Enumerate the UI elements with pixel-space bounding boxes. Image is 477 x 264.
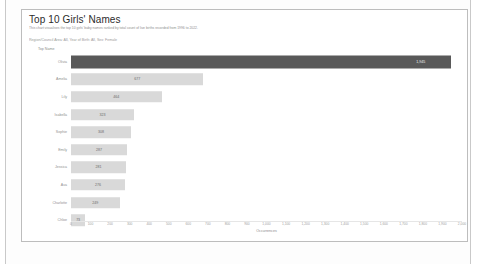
axis-tick: 1,800 — [419, 222, 427, 226]
axis-tick-labels: 01002003004005006007008009001,0001,1001,… — [71, 222, 462, 229]
bar-value-label: 276 — [95, 183, 101, 187]
axis-tick: 400 — [146, 222, 152, 226]
axis-tick: 500 — [166, 222, 172, 226]
bar-track: 281 — [71, 159, 462, 177]
axis-tick: 0 — [70, 222, 72, 226]
page-frame: Top 10 Girls' Names This chart visualise… — [5, 0, 471, 264]
axis-tick: 1,900 — [438, 222, 446, 226]
bar-category-label: Charlotte — [29, 201, 71, 205]
value-axis: 01002003004005006007008009001,0001,1001,… — [29, 221, 462, 237]
bar-track: 308 — [71, 123, 462, 141]
axis-tick: 1,600 — [380, 222, 388, 226]
category-axis-title: Top Name — [38, 47, 54, 51]
bar-value-label: 281 — [95, 165, 101, 169]
bar-track: 249 — [71, 194, 462, 212]
axis-tick: 300 — [127, 222, 133, 226]
bar-track: 287 — [71, 141, 462, 159]
bar-track: 677 — [71, 71, 462, 89]
bar-row[interactable]: Olivia1,945 — [29, 53, 462, 71]
axis-tick: 1,200 — [301, 222, 309, 226]
filter-summary: Region/Council Area: All, Year of Birth:… — [29, 38, 329, 42]
bar-track: 276 — [71, 176, 462, 194]
bar-row[interactable]: Jessica281 — [29, 159, 462, 177]
bar-category-label: Amelia — [29, 77, 71, 81]
bar-track: 464 — [71, 88, 462, 106]
bar-value-label: 287 — [96, 148, 102, 152]
bar-category-label: Jessica — [29, 165, 71, 169]
bar-value-label: 464 — [113, 95, 119, 99]
bar-category-label: Isabella — [29, 113, 71, 117]
bar-category-label: Ava — [29, 183, 71, 187]
axis-tick: 1,000 — [262, 222, 270, 226]
card-subtitle: This chart visualises the top 10 girls' … — [29, 26, 329, 30]
bar-row[interactable]: Sophie308 — [29, 123, 462, 141]
bar-value-label: 308 — [98, 130, 104, 134]
axis-tick: 1,700 — [399, 222, 407, 226]
axis-tick: 1,500 — [360, 222, 368, 226]
bar-category-label: Lily — [29, 95, 71, 99]
bar-track: 323 — [71, 106, 462, 124]
axis-tick: 600 — [186, 222, 192, 226]
bar-row[interactable]: Isabella323 — [29, 106, 462, 124]
report-card: Top 10 Girls' Names This chart visualise… — [21, 9, 468, 242]
axis-tick: 2,000 — [458, 222, 466, 226]
bar-value-label: 323 — [100, 113, 106, 117]
axis-tick: 1,300 — [321, 222, 329, 226]
bar-row[interactable]: Amelia677 — [29, 71, 462, 89]
bar-category-label: Sophie — [29, 130, 71, 134]
bar-value-label: 1,945 — [416, 60, 425, 64]
page-title: Top 10 Girls' Names — [29, 14, 121, 25]
bar-rows: Olivia1,945Amelia677Lily464Isabella323So… — [29, 53, 462, 229]
bar-row[interactable]: Charlotte249 — [29, 194, 462, 212]
axis-tick: 800 — [225, 222, 231, 226]
bar-value-label: 249 — [92, 201, 98, 205]
bar[interactable] — [71, 55, 451, 68]
axis-tick: 100 — [88, 222, 94, 226]
bar-category-label: Olivia — [29, 60, 71, 64]
bar-row[interactable]: Ava276 — [29, 176, 462, 194]
value-axis-title: Occurrences — [71, 229, 462, 233]
bar-chart-plot: Olivia1,945Amelia677Lily464Isabella323So… — [29, 53, 462, 237]
axis-tick: 200 — [107, 222, 113, 226]
axis-tick: 700 — [205, 222, 211, 226]
bar-value-label: 677 — [134, 77, 140, 81]
bar-row[interactable]: Emily287 — [29, 141, 462, 159]
bar-category-label: Emily — [29, 148, 71, 152]
axis-tick: 900 — [244, 222, 250, 226]
bar-row[interactable]: Lily464 — [29, 88, 462, 106]
bar-track: 1,945 — [71, 53, 462, 71]
axis-tick: 1,100 — [282, 222, 290, 226]
axis-tick: 1,400 — [341, 222, 349, 226]
